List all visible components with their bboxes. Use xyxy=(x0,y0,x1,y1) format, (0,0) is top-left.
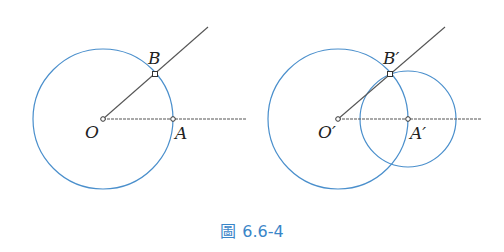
point-O-prime xyxy=(336,117,341,122)
point-A xyxy=(171,117,176,122)
point-B xyxy=(153,72,158,77)
right-figure: O′ A′ B′ xyxy=(268,27,481,189)
label-A-prime: A′ xyxy=(408,123,426,143)
label-O: O xyxy=(85,122,99,142)
label-O-prime: O′ xyxy=(318,122,336,142)
left-figure: O A B xyxy=(33,27,246,189)
caption-number: 6.6-4 xyxy=(242,222,283,241)
point-B-prime xyxy=(388,72,393,77)
caption-prefix: 圖 xyxy=(220,218,236,242)
label-B-prime: B′ xyxy=(382,48,399,68)
label-A: A xyxy=(173,123,187,143)
point-O xyxy=(101,117,106,122)
label-B: B xyxy=(147,48,161,68)
point-A-prime xyxy=(406,117,411,122)
figure-canvas: O A B O′ A′ B′ xyxy=(0,0,504,252)
figure-caption: 圖6.6-4 xyxy=(0,218,504,242)
